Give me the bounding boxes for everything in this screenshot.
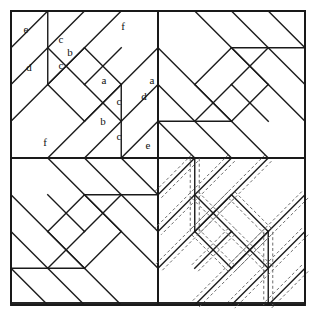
patch-label-a2: a xyxy=(150,74,155,86)
patch-label-c1: c xyxy=(59,33,64,45)
patch-label-f1: f xyxy=(121,20,125,32)
piecing-line xyxy=(232,195,269,232)
piecing-line xyxy=(195,48,232,85)
patch-label-layer: ecbfdcaacdbcfe xyxy=(24,20,155,151)
piecing-line xyxy=(121,158,158,195)
quadrant-upper-right xyxy=(158,11,305,158)
patch-label-a1: a xyxy=(102,74,107,86)
quilt-block-diagram: ecbfdcaacdbcfe xyxy=(0,0,318,320)
patch-label-c2: c xyxy=(59,59,64,71)
patch-label-c4: c xyxy=(117,130,122,142)
piecing-line xyxy=(11,11,48,48)
quilt-quadrants xyxy=(11,11,305,305)
patch-label-e: e xyxy=(24,23,29,35)
quadrant-lower-left xyxy=(11,158,158,305)
patch-label-b2: b xyxy=(100,115,106,127)
piecing-line xyxy=(158,158,195,195)
piecing-line xyxy=(48,85,85,122)
patch-label-b1: b xyxy=(67,46,73,58)
piecing-line xyxy=(268,11,305,48)
piecing-line xyxy=(158,121,195,158)
diagram-canvas: ecbfdcaacdbcfe xyxy=(0,0,318,320)
patch-label-d1: d xyxy=(26,61,32,73)
piecing-line xyxy=(11,268,48,305)
patch-label-c3: c xyxy=(117,95,122,107)
patch-label-e2: e xyxy=(146,139,151,151)
patch-label-f2: f xyxy=(43,136,47,148)
quadrant-lower-right xyxy=(158,158,305,305)
piecing-line xyxy=(268,268,305,305)
patch-label-d2: d xyxy=(141,90,147,102)
piecing-line xyxy=(85,232,122,269)
piecing-line xyxy=(121,121,158,158)
quadrant-upper-left xyxy=(11,11,158,158)
